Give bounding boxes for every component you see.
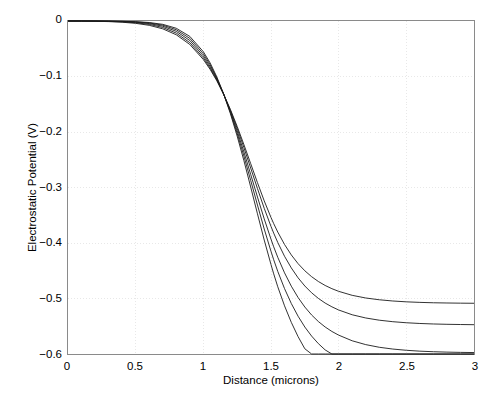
x-tick-label: 1.5 <box>263 361 279 373</box>
x-tick-label: 0 <box>64 361 70 373</box>
x-tick-label: 1 <box>200 361 206 373</box>
curve-path <box>68 21 474 325</box>
y-tick-label: −0.6 <box>39 349 62 361</box>
x-tick-label: 2.5 <box>399 361 415 373</box>
curve-path <box>68 21 474 354</box>
y-axis-title: Electrostatic Potential (V) <box>26 20 42 355</box>
data-curves <box>68 21 474 354</box>
y-tick-label: −0.2 <box>39 126 62 138</box>
y-tick-label: 0 <box>56 14 62 26</box>
x-tick-label: 2 <box>336 361 342 373</box>
x-tick-label: 3 <box>472 361 478 373</box>
curve-path <box>68 21 474 303</box>
x-tick-label: 0.5 <box>127 361 143 373</box>
x-axis-title: Distance (microns) <box>67 374 475 386</box>
plot-area <box>67 20 475 355</box>
y-tick-label: −0.5 <box>39 293 62 305</box>
y-tick-label: −0.3 <box>39 182 62 194</box>
chart-page: 0−0.1−0.2−0.3−0.4−0.5−0.6 00.511.522.53 … <box>0 0 504 399</box>
curve-path <box>68 21 474 353</box>
y-tick-label: −0.4 <box>39 238 62 250</box>
curve-path <box>68 21 474 354</box>
y-tick-label: −0.1 <box>39 70 62 82</box>
